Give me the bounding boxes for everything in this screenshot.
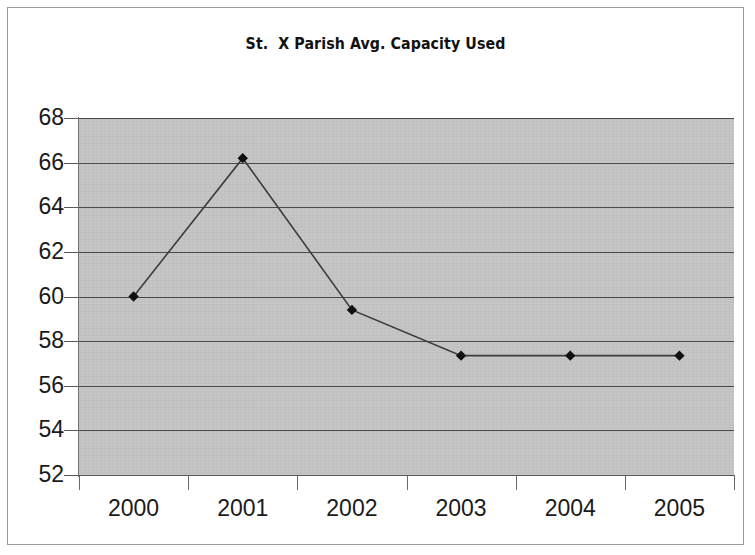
y-axis-tick bbox=[64, 118, 78, 119]
y-axis-tick bbox=[64, 297, 78, 298]
gridline bbox=[79, 163, 734, 164]
x-axis-tick bbox=[407, 476, 408, 490]
x-axis-tick bbox=[516, 476, 517, 490]
gridline bbox=[79, 118, 734, 119]
y-axis-tick bbox=[64, 430, 78, 431]
y-axis-tick bbox=[64, 163, 78, 164]
x-axis-label: 2005 bbox=[624, 497, 734, 520]
x-axis-tick bbox=[79, 476, 80, 490]
chart-frame: St. X Parish Avg. Capacity Used 68666462… bbox=[7, 7, 744, 545]
gridline bbox=[79, 297, 734, 298]
y-axis-label: 66 bbox=[12, 151, 64, 174]
y-axis-label: 68 bbox=[12, 106, 64, 129]
x-axis-tick bbox=[297, 476, 298, 490]
y-axis-tick bbox=[64, 252, 78, 253]
y-axis-label: 64 bbox=[12, 195, 64, 218]
y-axis-tick bbox=[64, 475, 78, 476]
x-axis-label: 2003 bbox=[406, 497, 516, 520]
chart-title: St. X Parish Avg. Capacity Used bbox=[59, 34, 691, 53]
gridline bbox=[79, 207, 734, 208]
plot-area bbox=[79, 118, 734, 475]
x-axis-label: 2004 bbox=[515, 497, 625, 520]
x-axis-label: 2001 bbox=[188, 497, 298, 520]
y-axis-label: 60 bbox=[12, 285, 64, 308]
y-axis-label: 54 bbox=[12, 418, 64, 441]
x-axis-tick bbox=[734, 476, 735, 490]
gridline bbox=[79, 386, 734, 387]
x-axis-label: 2000 bbox=[79, 497, 189, 520]
y-axis-line bbox=[78, 117, 79, 477]
y-axis-label: 58 bbox=[12, 329, 64, 352]
y-axis-label: 56 bbox=[12, 374, 64, 397]
y-axis-label: 62 bbox=[12, 240, 64, 263]
gridline bbox=[79, 341, 734, 342]
y-axis-tick bbox=[64, 386, 78, 387]
x-axis-tick bbox=[188, 476, 189, 490]
gridline bbox=[79, 252, 734, 253]
plot-background bbox=[79, 118, 734, 475]
x-axis-tick bbox=[625, 476, 626, 490]
gridline bbox=[79, 430, 734, 431]
y-axis-tick bbox=[64, 341, 78, 342]
x-axis-label: 2002 bbox=[297, 497, 407, 520]
y-axis-tick bbox=[64, 207, 78, 208]
y-axis-label: 52 bbox=[12, 463, 64, 486]
